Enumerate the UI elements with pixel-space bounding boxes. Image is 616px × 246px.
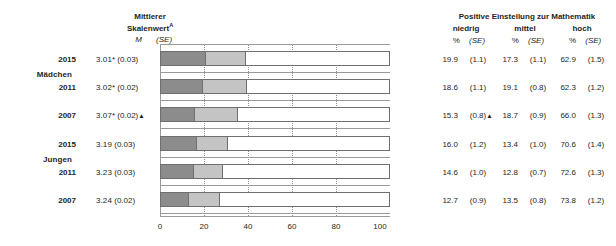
stat-mittel-maedchen-2007: 18.7 (0.9) xyxy=(498,111,546,120)
pct-label-mittel: % xyxy=(499,36,519,45)
mean-value: 3.24 xyxy=(96,196,112,205)
subheader-hoch: % (SE) xyxy=(556,36,608,45)
pct-label-niedrig: % xyxy=(440,36,460,45)
row-rule xyxy=(160,157,390,158)
mean-triangle-marker: ▲ xyxy=(138,112,144,119)
stat-se: (1.3) xyxy=(578,168,604,177)
gridline-80 xyxy=(336,44,337,216)
stat-niedrig-jungen-2011: 14.6 (1.0) xyxy=(438,168,486,177)
stat-pct: 70.6 xyxy=(556,140,576,149)
mean-header-line2-text: Skalenwert xyxy=(127,24,169,33)
mean-se: (0.03) xyxy=(114,140,135,149)
segment-hoch xyxy=(220,192,390,207)
stacked-bar-maedchen-2011 xyxy=(160,79,390,94)
stat-mittel-jungen-2015: 13.4 (1.0) xyxy=(498,140,546,149)
row-rule xyxy=(160,128,390,129)
stat-pct: 15.3 xyxy=(438,111,458,120)
stacked-bar-maedchen-2015 xyxy=(160,51,390,66)
row-year-maedchen-2011: 2011 xyxy=(44,83,76,92)
gridline-60 xyxy=(292,44,293,216)
segment-hoch xyxy=(238,107,390,122)
stat-pct: 18.7 xyxy=(498,111,518,120)
stat-niedrig-maedchen-2007: 15.3 (0.8)▲ xyxy=(438,111,493,120)
mean-subheader: M (SE) xyxy=(105,35,195,44)
segment-niedrig xyxy=(160,164,194,179)
stat-pct: 66.0 xyxy=(556,111,576,120)
x-tick-80: 80 xyxy=(321,222,351,231)
se-label-mittel: (SE) xyxy=(521,36,551,45)
stat-pct: 17.3 xyxy=(498,55,518,64)
group-label-jungen: Jungen xyxy=(10,155,72,164)
stat-hoch-jungen-2011: 72.6 (1.3) xyxy=(556,168,604,177)
stat-se: (1.2) xyxy=(578,196,604,205)
subheader-mittel: % (SE) xyxy=(498,36,552,45)
stat-se: (0.9) xyxy=(520,111,546,120)
stacked-bar-maedchen-2007 xyxy=(160,107,390,122)
stat-hoch-jungen-2007: 73.8 (1.2) xyxy=(556,196,604,205)
pct-label-hoch: % xyxy=(556,36,576,45)
stacked-bar-jungen-2015 xyxy=(160,136,390,151)
row-rule xyxy=(160,100,390,101)
stat-se: (1.2) xyxy=(460,140,486,149)
stat-mittel-maedchen-2015: 17.3 (1.1) xyxy=(498,55,546,64)
mean-header-superscript: A xyxy=(169,22,173,28)
segment-hoch xyxy=(247,79,390,94)
stat-pct: 13.5 xyxy=(498,196,518,205)
stat-se: (1.1) xyxy=(460,83,486,92)
row-year-maedchen-2007: 2007 xyxy=(44,111,76,120)
stat-pct: 62.9 xyxy=(556,55,576,64)
gridline-20 xyxy=(204,44,205,216)
y-axis-line xyxy=(160,44,161,216)
mean-header-line1: Mittlerer xyxy=(105,12,195,21)
stat-pct: 73.8 xyxy=(556,196,576,205)
x-tick-20: 20 xyxy=(189,222,219,231)
stat-pct: 14.6 xyxy=(438,168,458,177)
stat-se: (1.1) xyxy=(520,55,546,64)
stat-hoch-maedchen-2015: 62.9 (1.5) xyxy=(556,55,604,64)
stat-pct: 18.6 xyxy=(438,83,458,92)
stat-hoch-maedchen-2007: 66.0 (1.3) xyxy=(556,111,604,120)
stat-hoch-jungen-2015: 70.6 (1.4) xyxy=(556,140,604,149)
stat-niedrig-jungen-2007: 12.7 (0.9) xyxy=(438,196,486,205)
mean-se: (0.02) xyxy=(114,196,135,205)
x-tick-60: 60 xyxy=(277,222,307,231)
stat-se: (1.1) xyxy=(460,55,486,64)
x-tick-0: 0 xyxy=(145,222,175,231)
mean-value: 3.19 xyxy=(96,140,112,149)
group-label-maedchen: Mädchen xyxy=(10,70,72,79)
stat-niedrig-maedchen-2011: 18.6 (1.1) xyxy=(438,83,486,92)
stat-se: (1.5) xyxy=(578,55,604,64)
segment-niedrig xyxy=(160,192,189,207)
x-axis-line xyxy=(160,216,390,217)
stat-pct: 12.7 xyxy=(438,196,458,205)
stat-pct: 19.9 xyxy=(438,55,458,64)
row-year-jungen-2015: 2015 xyxy=(44,140,76,149)
right-table-title: Positive Einstellung zur Mathematik xyxy=(438,12,616,21)
column-header-mittel: mittel xyxy=(498,24,552,33)
stat-mittel-jungen-2007: 13.5 (0.8) xyxy=(498,196,546,205)
se-label-niedrig: (SE) xyxy=(462,36,492,45)
row-year-jungen-2007: 2007 xyxy=(44,196,76,205)
stat-niedrig-maedchen-2015: 19.9 (1.1) xyxy=(438,55,486,64)
mean-m-label: M xyxy=(116,35,142,44)
segment-mittel xyxy=(206,51,246,66)
stat-pct: 13.4 xyxy=(498,140,518,149)
stat-pct: 72.6 xyxy=(556,168,576,177)
mean-se: (0.02) xyxy=(117,111,138,120)
stat-niedrig-jungen-2015: 16.0 (1.2) xyxy=(438,140,486,149)
stat-mittel-jungen-2011: 12.8 (0.7) xyxy=(498,168,546,177)
stat-se: (1.0) xyxy=(460,168,486,177)
segment-hoch xyxy=(246,51,391,66)
segment-mittel xyxy=(189,192,220,207)
segment-mittel xyxy=(197,136,228,151)
stat-se: (1.2) xyxy=(578,83,604,92)
chart-figure: Mittlerer SkalenwertA M (SE) Positive Ei… xyxy=(0,0,616,246)
se-label-hoch: (SE) xyxy=(578,36,608,45)
stat-se: (0.8) xyxy=(520,83,546,92)
mean-se-label: (SE) xyxy=(144,35,184,44)
stat-mittel-maedchen-2011: 19.1 (0.8) xyxy=(498,83,546,92)
segment-hoch xyxy=(223,164,390,179)
stat-triangle-marker: ▲ xyxy=(486,112,492,119)
row-year-maedchen-2015: 2015 xyxy=(44,55,76,64)
row-rule xyxy=(160,72,390,73)
